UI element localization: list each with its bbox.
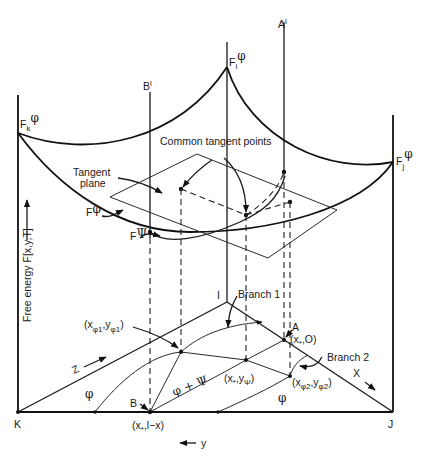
point-phi1-label: (xφ1,yφ1) xyxy=(84,318,124,334)
tangent-line-1 xyxy=(181,189,246,215)
region-phi-plus-psi: φ + Ψ xyxy=(170,373,210,399)
x-axis-arrow xyxy=(365,382,375,390)
point-x-star-1-minus-x-label: (x*,l−x) xyxy=(132,419,164,434)
branch1-curve xyxy=(181,322,262,352)
B-prime-label: Bl xyxy=(143,79,152,92)
common-tangent-points-label: Common tangent points xyxy=(160,135,271,147)
Fj-label: Fjφ xyxy=(396,147,413,171)
region-phi-left: φ xyxy=(85,387,93,401)
region-phi-right: φ xyxy=(278,391,286,405)
Fk-label: Fkφ xyxy=(20,111,39,133)
point-A xyxy=(282,338,286,342)
point-base-phi-right xyxy=(216,410,220,414)
curve-Fi-Fj xyxy=(227,67,393,165)
arrow-common-tangent-1 xyxy=(183,160,212,187)
tie-psi-A xyxy=(246,340,284,360)
point-A-label: A xyxy=(292,321,299,333)
branch1-label: Branch 1 xyxy=(238,288,280,300)
tangent-line-2 xyxy=(246,172,284,215)
point-B xyxy=(148,410,152,414)
y-axis-label: y xyxy=(201,437,207,449)
branch2-label: Branch 2 xyxy=(327,351,369,363)
z-axis-label: Z xyxy=(70,362,81,376)
boundary-phi-left xyxy=(95,352,181,412)
point-base-phi xyxy=(93,410,97,414)
point-phi1 xyxy=(179,350,183,354)
point-phi2-label: (xφ2,yφ2) xyxy=(292,376,332,391)
curve-F-phi-lower xyxy=(18,133,393,232)
tangent-plane-label-2: plane xyxy=(80,177,106,189)
point-B-label: B xyxy=(130,397,137,409)
arrow-B xyxy=(140,404,148,410)
arrow-tangent-plane xyxy=(118,178,162,193)
z-axis-arrow xyxy=(84,357,106,367)
point-K xyxy=(16,410,20,414)
point-psi xyxy=(244,358,248,362)
Fi-label: Fiφ xyxy=(229,49,246,71)
branch2-curve xyxy=(290,355,308,376)
corner-I-label: I xyxy=(217,289,220,301)
A-prime-label: Al xyxy=(278,17,287,30)
diagram-canvas: Free energy F[x,y,T] Fkφ Fiφ Fjφ Fφ FΨ B… xyxy=(0,0,425,460)
F-psi-label: FΨ xyxy=(130,227,147,242)
arrow-branch1 xyxy=(228,296,237,327)
x-axis-label: X xyxy=(353,367,360,379)
free-energy-diagram: Free energy F[x,y,T] Fkφ Fiφ Fjφ Fφ FΨ B… xyxy=(0,0,425,460)
tie-phi1-psi xyxy=(181,352,246,360)
corner-K-label: K xyxy=(14,418,21,430)
F-phi-label: Fφ xyxy=(86,202,101,218)
curve-F-psi xyxy=(150,176,285,239)
curve-Fk-Fi xyxy=(18,67,227,144)
free-energy-label: Free energy F[x,y,T] xyxy=(21,228,33,322)
arrow-phi1-label xyxy=(133,327,178,348)
point-x-star-y-psi-label: (x*,yΨ) xyxy=(224,372,254,387)
corner-J-label: J xyxy=(388,418,393,430)
